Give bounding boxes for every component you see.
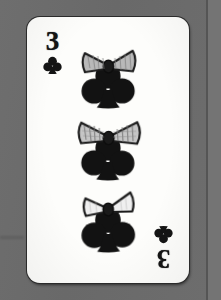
playing-card[interactable]: 3 (27, 17, 189, 283)
bow-shape (79, 122, 140, 145)
card-scene: 3 (0, 0, 221, 300)
bow-shape (83, 51, 136, 73)
pip-club-bow-3 (70, 189, 145, 255)
pip-club-bow-2 (71, 118, 146, 183)
card-index-bottom-right: 3 (147, 224, 181, 272)
club-icon-bottom-right (147, 224, 181, 244)
bow-shape (83, 192, 133, 216)
background-edge-mark (0, 236, 24, 239)
background-right-panel (208, 0, 221, 300)
pip-column (27, 46, 189, 254)
index-rank-bottom-right: 3 (147, 245, 181, 272)
pip-club-bow-1 (71, 46, 146, 111)
